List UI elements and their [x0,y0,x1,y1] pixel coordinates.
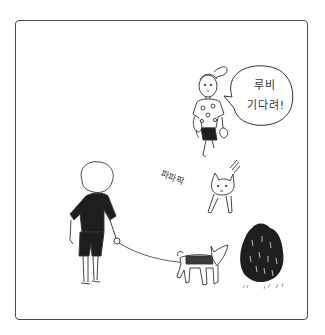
running-dog-figure [208,160,240,213]
speech-bubble-line-1: 루비 [250,80,280,91]
man-figure [70,162,120,284]
woman-figure [193,67,228,157]
bush [240,224,283,290]
leashed-dog-figure [177,245,228,285]
speech-bubble [224,66,293,126]
speech-bubble-line-2: 기다려! [240,100,292,111]
